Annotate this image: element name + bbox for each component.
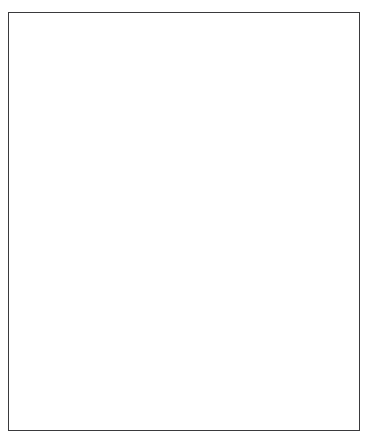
- anatomy-figure: [0, 0, 370, 439]
- figure-border-frame: [8, 12, 360, 431]
